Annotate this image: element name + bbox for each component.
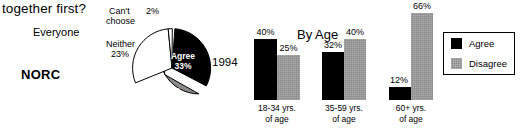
bar-group: 32% 40% 35-59 yrs. of age xyxy=(322,0,376,129)
pie-label-cant-choose-line2: choose xyxy=(106,17,135,26)
bar-value-agree: 12% xyxy=(385,76,413,85)
bar-group-label-line1: 18-34 yrs. xyxy=(248,103,306,114)
pie-value-agree: 33% xyxy=(174,61,191,71)
bar-agree xyxy=(322,52,344,100)
bar-group-label-line1: 35-59 yrs. xyxy=(315,103,373,114)
legend-row-disagree: Disagree xyxy=(444,54,514,75)
audience-label: Everyone xyxy=(33,27,79,38)
legend-swatch-agree-icon xyxy=(451,38,462,49)
bar-group-label-line2: of age xyxy=(382,114,440,125)
bar-value-disagree: 40% xyxy=(341,28,369,37)
bar-group-label-line2: of age xyxy=(315,114,373,125)
pie-label-cant-choose-line1: Can't xyxy=(109,7,130,16)
pie-label-agree: Agree xyxy=(171,51,195,61)
bar-value-disagree: 66% xyxy=(408,2,436,11)
bar-group: 12% 66% 60+ yrs. of age xyxy=(389,0,443,129)
bar-disagree xyxy=(344,39,366,100)
source-label: NORC xyxy=(21,68,60,81)
bar-disagree xyxy=(277,55,300,100)
bar-agree xyxy=(389,87,411,100)
bar-group: 40% 25% 18-34 yrs. of age xyxy=(254,0,308,129)
bar-value-disagree: 25% xyxy=(274,44,303,53)
pie-value-neither: 23% xyxy=(111,50,129,59)
pie-year-label: 1994 xyxy=(212,57,238,69)
pie-label-disagree: Disagree xyxy=(144,85,180,95)
question-text: together first? xyxy=(2,2,86,16)
bar-value-agree: 40% xyxy=(251,28,280,37)
pie-label-neither: Neither xyxy=(106,40,135,49)
bar-value-agree: 32% xyxy=(319,41,347,50)
legend-row-agree: Agree xyxy=(444,33,514,54)
bar-group-label-line1: 60+ yrs. xyxy=(382,103,440,114)
bar-chart: 40% 25% 18-34 yrs. of age 32% 40% 35-59 … xyxy=(246,0,446,129)
legend-label-agree: Agree xyxy=(469,39,494,49)
pie-value-disagree: 42% xyxy=(153,95,170,105)
pie-value-cant-choose: 2% xyxy=(146,7,159,16)
pie-chart-svg: Agree 33% Disagree 42% xyxy=(126,16,222,120)
chart-legend: Agree Disagree xyxy=(443,32,515,75)
legend-label-disagree: Disagree xyxy=(469,59,507,69)
bar-group-label-line2: of age xyxy=(248,114,306,125)
chart-figure: together first? Everyone NORC Agree 33% … xyxy=(0,0,521,129)
bar-disagree xyxy=(411,13,433,100)
legend-swatch-disagree-icon xyxy=(451,58,462,69)
pie-chart: Agree 33% Disagree 42% Can't choose 2% N… xyxy=(126,16,222,120)
